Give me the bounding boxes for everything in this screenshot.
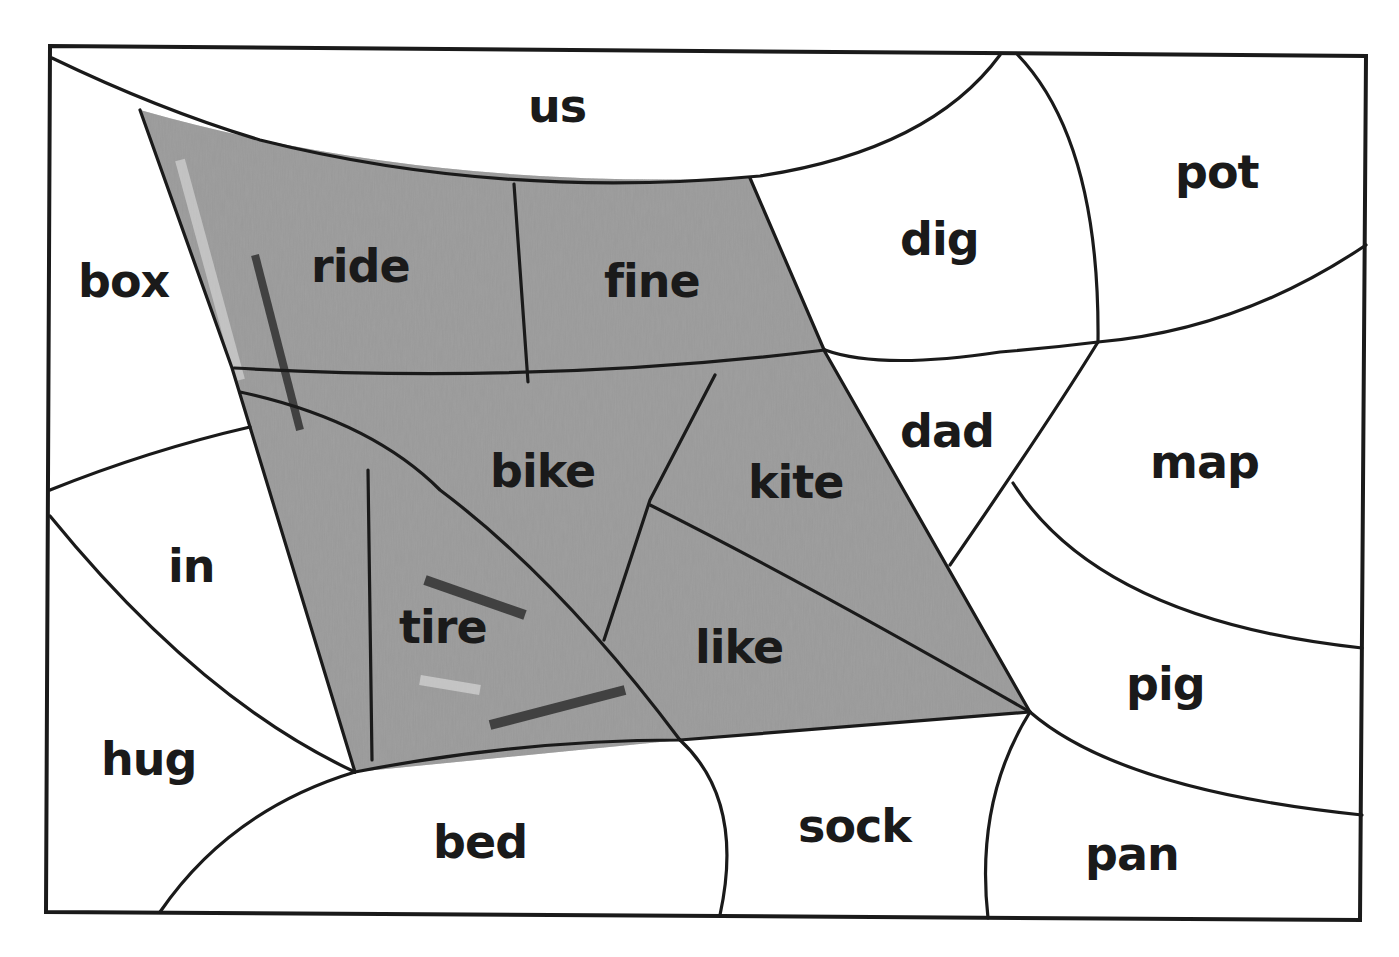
label-sock: sock bbox=[798, 799, 913, 853]
label-box: box bbox=[78, 254, 170, 308]
label-in: in bbox=[168, 539, 215, 593]
label-tire: tire bbox=[399, 600, 487, 654]
label-dig: dig bbox=[900, 212, 979, 266]
label-pan: pan bbox=[1085, 827, 1179, 881]
label-bike: bike bbox=[490, 444, 595, 498]
label-ride: ride bbox=[311, 239, 410, 293]
label-hug: hug bbox=[101, 732, 196, 786]
label-map: map bbox=[1150, 435, 1259, 489]
label-dad: dad bbox=[900, 404, 994, 458]
label-pig: pig bbox=[1126, 657, 1205, 711]
label-pot: pot bbox=[1175, 145, 1259, 199]
worksheet: us pot box ride fine dig dad map bike ki… bbox=[0, 0, 1399, 957]
label-like: like bbox=[695, 620, 783, 674]
label-us: us bbox=[528, 79, 586, 133]
label-fine: fine bbox=[604, 254, 700, 308]
label-kite: kite bbox=[748, 455, 844, 509]
label-bed: bed bbox=[433, 815, 527, 869]
